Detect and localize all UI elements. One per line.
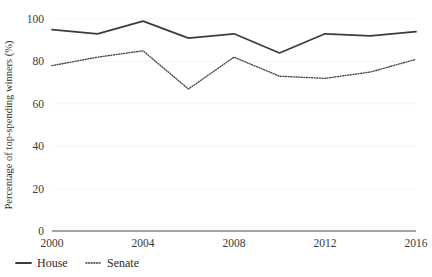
y-tick-label-20: 20	[33, 183, 45, 195]
series-line-house	[52, 21, 416, 53]
gridlines	[52, 19, 416, 189]
y-axis-ticks: 020406080100	[27, 13, 45, 237]
series-line-senate	[52, 51, 416, 89]
x-tick-label-2012: 2012	[314, 237, 337, 249]
y-tick-label-60: 60	[33, 98, 45, 110]
x-axis-ticks: 20002004200820122016	[41, 237, 428, 249]
y-axis-title: Percentage of top-spending winners (%)	[3, 40, 15, 210]
legend-label-house: House	[37, 256, 68, 270]
chart-container: 020406080100 20002004200820122016 Percen…	[0, 0, 432, 277]
y-tick-label-40: 40	[33, 140, 45, 152]
x-tick-label-2008: 2008	[223, 237, 246, 249]
y-tick-label-100: 100	[27, 13, 45, 25]
x-tick-label-2000: 2000	[41, 237, 64, 249]
chart-legend: HouseSenate	[16, 256, 139, 270]
data-series-group	[52, 21, 416, 89]
y-tick-label-80: 80	[33, 55, 45, 67]
line-chart: 020406080100 20002004200820122016 Percen…	[0, 0, 432, 277]
legend-label-senate: Senate	[107, 256, 139, 270]
x-tick-label-2016: 2016	[405, 237, 428, 249]
x-tick-label-2004: 2004	[132, 237, 155, 249]
y-tick-label-0: 0	[38, 225, 44, 237]
